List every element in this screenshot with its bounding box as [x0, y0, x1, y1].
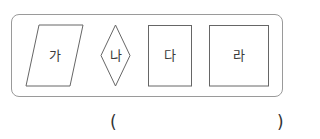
shape-label-ga: 가 [49, 49, 61, 63]
shape-label-da: 다 [164, 49, 176, 63]
answer-close-paren: ) [277, 113, 284, 131]
answer-open-paren: ( [110, 113, 117, 131]
answer-blank[interactable] [122, 113, 272, 131]
shape-label-ra: 라 [233, 49, 245, 63]
shape-label-na: 나 [110, 49, 122, 63]
